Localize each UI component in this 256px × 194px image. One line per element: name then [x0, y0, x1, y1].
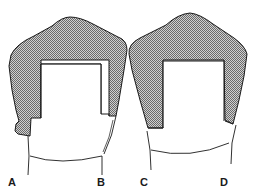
left-margin-b [104, 116, 116, 154]
left-crown [9, 17, 127, 175]
crown-diagram [0, 0, 256, 194]
left-root [28, 136, 102, 175]
label-a: A [8, 177, 16, 188]
right-crown [129, 13, 247, 170]
right-root [147, 125, 236, 170]
label-c: C [140, 177, 148, 188]
label-d: D [220, 177, 228, 188]
label-b: B [97, 177, 105, 188]
